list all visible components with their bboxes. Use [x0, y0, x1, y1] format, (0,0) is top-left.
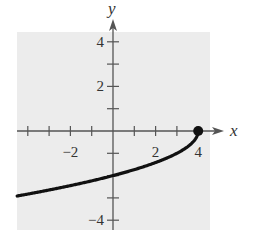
- y-tick-label: 2: [97, 78, 105, 94]
- y-axis-label: y: [106, 0, 116, 18]
- function-graph: −22442−4xy: [0, 0, 253, 236]
- x-tick-label: 2: [152, 144, 160, 160]
- y-tick-label: 4: [97, 34, 105, 50]
- y-tick-label: −4: [88, 212, 104, 228]
- x-tick-label: 4: [194, 144, 202, 160]
- endpoint-dot: [193, 126, 203, 136]
- x-tick-label: −2: [62, 144, 78, 160]
- x-axis-label: x: [229, 121, 238, 140]
